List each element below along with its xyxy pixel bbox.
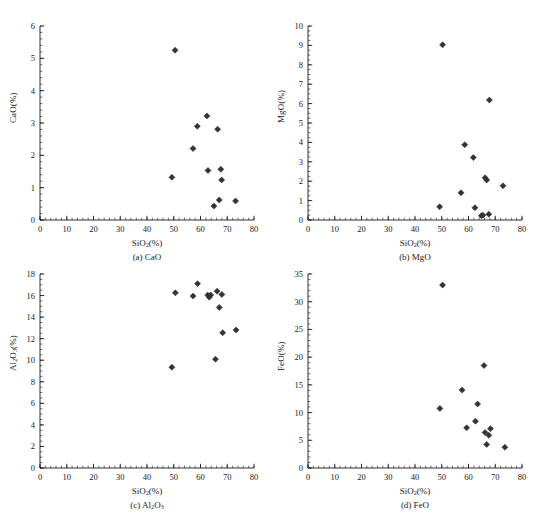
data-point <box>458 190 464 196</box>
svg-text:10: 10 <box>27 355 36 365</box>
svg-text:60: 60 <box>464 224 473 234</box>
svg-text:10: 10 <box>295 408 304 418</box>
scatter-plot-feo[interactable]: 0102030405060708005101520253035 <box>268 260 536 510</box>
figure-root: 010203040506070800123456 CaO(%) SiO2(%) … <box>0 0 536 513</box>
svg-text:0: 0 <box>31 215 35 225</box>
svg-text:4: 4 <box>31 420 36 430</box>
panel-caption-al2o3: (c) Al2O3 <box>13 500 281 510</box>
svg-text:70: 70 <box>491 224 500 234</box>
svg-text:0: 0 <box>31 463 35 473</box>
svg-text:5: 5 <box>299 435 303 445</box>
svg-text:2: 2 <box>31 150 35 160</box>
data-point <box>484 441 490 447</box>
svg-text:18: 18 <box>27 269 36 279</box>
svg-text:50: 50 <box>170 472 179 482</box>
data-point <box>205 168 211 174</box>
data-point <box>472 205 478 211</box>
svg-text:20: 20 <box>295 352 304 362</box>
data-point <box>500 183 506 189</box>
svg-text:30: 30 <box>116 472 125 482</box>
data-point <box>440 42 446 48</box>
data-point <box>214 288 220 294</box>
data-point <box>220 330 226 336</box>
svg-text:70: 70 <box>223 472 232 482</box>
svg-text:0: 0 <box>299 215 303 225</box>
svg-text:5: 5 <box>299 118 303 128</box>
scatter-plot-mgo[interactable]: 01020304050607080012345678910 <box>268 12 536 262</box>
data-point <box>219 291 225 297</box>
data-point <box>481 362 487 368</box>
svg-text:2: 2 <box>31 441 35 451</box>
svg-text:2: 2 <box>299 176 303 186</box>
scatter-plot-cao[interactable]: 010203040506070800123456 <box>0 12 268 262</box>
svg-text:5: 5 <box>31 53 35 63</box>
svg-text:70: 70 <box>223 224 232 234</box>
data-point <box>194 123 200 129</box>
data-point <box>169 364 175 370</box>
svg-text:12: 12 <box>27 334 36 344</box>
data-point <box>216 304 222 310</box>
data-point <box>233 327 239 333</box>
data-point <box>233 198 239 204</box>
data-point <box>502 444 508 450</box>
svg-text:20: 20 <box>89 224 98 234</box>
svg-text:30: 30 <box>295 297 304 307</box>
svg-text:0: 0 <box>306 472 310 482</box>
x-axis-label-cao: SiO2(%) <box>13 238 281 248</box>
chart-panel-mgo: 01020304050607080012345678910 MgO(%) SiO… <box>268 12 536 262</box>
svg-text:14: 14 <box>27 312 36 322</box>
data-point <box>462 142 468 148</box>
svg-text:8: 8 <box>299 60 303 70</box>
x-axis-label-mgo: SiO2(%) <box>281 238 536 248</box>
svg-text:6: 6 <box>31 398 35 408</box>
data-point <box>219 177 225 183</box>
svg-text:6: 6 <box>31 21 35 31</box>
data-point <box>169 174 175 180</box>
svg-text:10: 10 <box>63 472 72 482</box>
chart-panel-al2o3: 01020304050607080024681012141618 Al2O3(%… <box>0 260 268 510</box>
svg-text:1: 1 <box>31 183 35 193</box>
svg-text:0: 0 <box>38 472 42 482</box>
svg-text:40: 40 <box>143 224 152 234</box>
data-point <box>464 425 470 431</box>
data-point <box>486 97 492 103</box>
svg-text:80: 80 <box>250 224 259 234</box>
data-point <box>459 387 465 393</box>
svg-text:60: 60 <box>464 472 473 482</box>
data-point <box>472 418 478 424</box>
data-point <box>440 282 446 288</box>
panel-caption-feo: (d) FeO <box>281 500 536 510</box>
svg-text:30: 30 <box>116 224 125 234</box>
chart-panel-cao: 010203040506070800123456 CaO(%) SiO2(%) … <box>0 12 268 262</box>
data-point <box>486 211 492 217</box>
svg-text:0: 0 <box>38 224 42 234</box>
svg-text:10: 10 <box>295 21 304 31</box>
svg-text:6: 6 <box>299 99 303 109</box>
svg-text:30: 30 <box>384 472 393 482</box>
svg-text:35: 35 <box>295 269 304 279</box>
x-axis-label-feo: SiO2(%) <box>281 486 536 496</box>
svg-text:7: 7 <box>299 79 303 89</box>
data-point <box>212 356 218 362</box>
svg-text:30: 30 <box>384 224 393 234</box>
chart-panel-feo: 0102030405060708005101520253035 FeO(%) S… <box>268 260 536 510</box>
data-point <box>470 155 476 161</box>
svg-text:4: 4 <box>31 86 36 96</box>
svg-text:40: 40 <box>143 472 152 482</box>
data-point <box>190 146 196 152</box>
svg-text:0: 0 <box>299 463 303 473</box>
figure-top-caption <box>0 0 536 9</box>
svg-text:20: 20 <box>89 472 98 482</box>
svg-text:16: 16 <box>27 291 36 301</box>
scatter-plot-al2o3[interactable]: 01020304050607080024681012141618 <box>0 260 268 510</box>
data-point <box>437 405 443 411</box>
svg-text:9: 9 <box>299 40 303 50</box>
svg-text:80: 80 <box>518 472 527 482</box>
data-point <box>172 290 178 296</box>
data-point <box>215 126 221 132</box>
svg-text:10: 10 <box>331 224 340 234</box>
svg-text:80: 80 <box>250 472 259 482</box>
data-point <box>437 204 443 210</box>
data-point <box>204 113 210 119</box>
svg-text:80: 80 <box>518 224 527 234</box>
